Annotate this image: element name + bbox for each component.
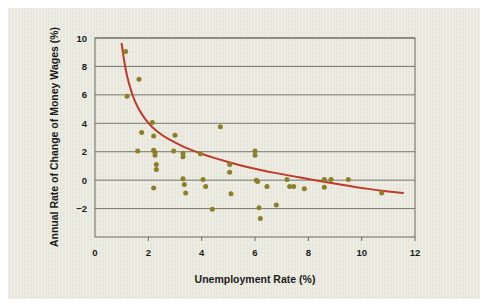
data-point — [171, 149, 176, 154]
x-tick-label: 12 — [410, 247, 421, 258]
data-point — [154, 162, 159, 167]
data-point — [302, 186, 307, 191]
data-point — [139, 130, 144, 135]
data-point — [257, 205, 262, 210]
y-tick-label: 4 — [82, 118, 88, 129]
data-point — [229, 191, 234, 196]
data-point — [253, 149, 258, 154]
x-tick-label: 8 — [306, 247, 311, 258]
x-tick-label: 0 — [92, 247, 97, 258]
plot-frame-rect — [95, 38, 415, 237]
y-tick-label: −2 — [76, 203, 87, 214]
figure-root: −20246810 024681012 Unemployment Rate (%… — [0, 0, 488, 307]
data-point — [203, 184, 208, 189]
x-tick-label: 10 — [356, 247, 367, 258]
data-point — [255, 179, 260, 184]
data-point — [322, 185, 327, 190]
x-tick-label: 6 — [252, 247, 257, 258]
data-point — [274, 203, 279, 208]
data-point — [135, 149, 140, 154]
scatter-chart: −20246810 024681012 Unemployment Rate (%… — [0, 0, 488, 307]
data-point — [379, 190, 384, 195]
data-point — [137, 77, 142, 82]
x-axis-ticks — [148, 237, 415, 241]
grid-lines — [95, 38, 415, 209]
data-point — [210, 207, 215, 212]
y-tick-label: 10 — [76, 33, 87, 44]
y-tick-label: 8 — [82, 61, 87, 72]
data-point — [173, 133, 178, 138]
y-axis-title: Annual Rate of Change of Money Wages (%) — [48, 27, 60, 247]
data-point — [181, 154, 186, 159]
y-axis-tick-labels: −20246810 — [76, 33, 88, 215]
data-point — [153, 153, 158, 158]
data-point — [182, 182, 187, 187]
y-tick-label: 0 — [82, 175, 87, 186]
data-point — [329, 177, 334, 182]
data-point — [183, 190, 188, 195]
data-point — [154, 167, 159, 172]
data-point — [181, 176, 186, 181]
data-point — [265, 184, 270, 189]
data-point — [285, 177, 290, 182]
y-tick-label: 6 — [82, 89, 87, 100]
data-point — [125, 94, 130, 99]
x-tick-label: 4 — [199, 247, 205, 258]
data-point — [227, 170, 232, 175]
data-point — [151, 185, 156, 190]
data-point — [322, 177, 327, 182]
data-point — [227, 162, 232, 167]
data-point — [253, 153, 258, 158]
data-point — [201, 177, 206, 182]
data-point — [346, 177, 351, 182]
data-point — [198, 151, 203, 156]
plot-frame — [95, 38, 415, 237]
x-axis-tick-labels: 024681012 — [92, 247, 420, 258]
x-axis-title: Unemployment Rate (%) — [195, 273, 316, 285]
data-point — [150, 120, 155, 125]
data-point — [258, 216, 263, 221]
data-point — [123, 49, 128, 54]
y-tick-label: 2 — [82, 146, 87, 157]
data-point — [291, 184, 296, 189]
data-point — [151, 134, 156, 139]
x-tick-label: 2 — [146, 247, 151, 258]
data-point — [218, 124, 223, 129]
